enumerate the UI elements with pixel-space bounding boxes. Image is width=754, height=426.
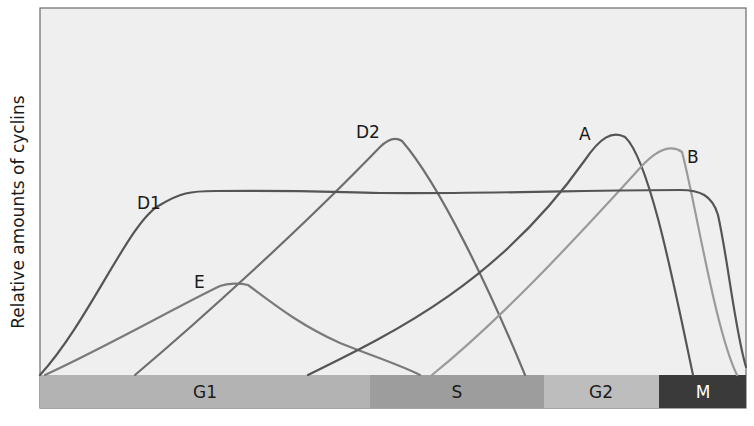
phase-bar: G1 S G2 M	[40, 375, 746, 408]
cyclin-chart: Relative amounts of cyclins G1 S G2 M D1…	[0, 0, 754, 426]
y-axis-label: Relative amounts of cyclins	[8, 95, 28, 329]
label-b: B	[687, 147, 699, 167]
phase-label-g1: G1	[193, 382, 217, 402]
phase-label-g2: G2	[589, 382, 613, 402]
label-d2: D2	[356, 122, 380, 142]
phase-label-m: M	[696, 382, 711, 402]
label-d1: D1	[137, 193, 161, 213]
label-a: A	[579, 124, 591, 144]
label-e: E	[194, 272, 205, 292]
phase-label-s: S	[452, 382, 463, 402]
